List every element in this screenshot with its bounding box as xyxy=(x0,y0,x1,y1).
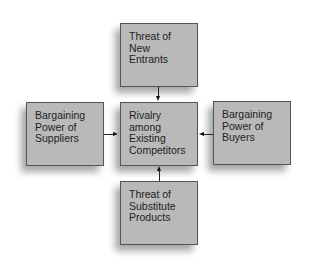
box-text-line: Rivalry xyxy=(129,110,197,122)
box-text-line: Existing xyxy=(129,133,197,145)
box-threat-of-new-entrants: Threat of New Entrants xyxy=(120,23,198,87)
box-bargaining-power-of-buyers: Bargaining Power of Buyers xyxy=(213,101,291,165)
box-threat-of-substitute-products: Threat of Substitute Products xyxy=(120,181,198,245)
box-text-line: Buyers xyxy=(222,132,290,144)
arrow-up-icon xyxy=(157,166,161,171)
box-text-line: Competitors xyxy=(129,145,197,157)
box-text-line: Threat of xyxy=(129,189,197,201)
box-text-line: Products xyxy=(129,212,197,224)
box-text-line: Bargaining xyxy=(35,110,103,122)
box-text-line: Bargaining xyxy=(222,109,290,121)
box-text-line: Threat of xyxy=(129,31,197,43)
connector-right-to-center xyxy=(203,134,213,135)
connector-bottom-to-center xyxy=(159,171,160,181)
arrow-down-icon xyxy=(156,96,160,101)
box-text-line: Suppliers xyxy=(35,133,103,145)
box-rivalry-among-existing-competitors: Rivalry among Existing Competitors xyxy=(120,102,198,166)
arrow-right-icon xyxy=(113,132,118,136)
arrow-left-icon xyxy=(199,132,204,136)
box-text-line: Entrants xyxy=(129,54,197,66)
box-bargaining-power-of-suppliers: Bargaining Power of Suppliers xyxy=(26,102,104,166)
